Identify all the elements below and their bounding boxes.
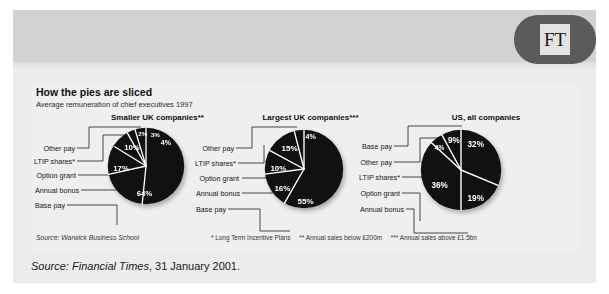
caption-publication: Financial Times	[72, 260, 149, 272]
pie-2-value-10: 10%	[270, 164, 286, 173]
pie-2-value-15: 15%	[282, 144, 298, 153]
chart-source-note: Source: Warwick Business School	[36, 234, 139, 241]
pie-2-label-other-pay: Other pay	[194, 144, 234, 153]
ft-logo-badge: FT	[514, 15, 596, 64]
pie-1-value-17: 17%	[113, 164, 129, 173]
chart-subtitle: Average remuneration of chief executives…	[36, 100, 193, 109]
pie-2-label-annual-bonus: Annual bonus	[194, 189, 240, 198]
pie-3-label-base-pay: Base pay	[358, 142, 392, 151]
pie-1-value-64: 64%	[137, 189, 153, 198]
header-band-fade	[13, 62, 596, 69]
chart-title: How the pies are sliced	[36, 86, 152, 98]
pie-3-value-36: 36%	[431, 181, 448, 190]
chart-card: How the pies are sliced Average remunera…	[31, 82, 578, 250]
pie-1-label-base-pay: Base pay	[31, 201, 65, 210]
pie-1-value-2: 2%	[138, 130, 147, 137]
pie-2-label-ltip-shares: LTIP shares*	[194, 159, 236, 168]
pie-2-label-base-pay: Base pay	[194, 205, 226, 214]
pie-1-value-10: 10%	[124, 143, 140, 152]
pie-3-value-4: 4%	[435, 144, 445, 151]
pie-chart-largest-uk: Largest UK companies*** Other pay LTIP s…	[194, 113, 379, 250]
chart-footnotes: * Long Term Incentive Plans ** Annual sa…	[211, 234, 484, 241]
pie-3-value-32: 32%	[468, 140, 485, 149]
pie-3-label-ltip-shares: LTIP shares*	[358, 173, 400, 182]
header-band	[13, 10, 596, 62]
ft-logo-square: FT	[540, 24, 570, 55]
pie-2-label-option-grant: Option grant	[194, 174, 239, 183]
ft-logo-text: FT	[544, 30, 566, 49]
pie-3-graphic: 32% 9% 4% 36% 19%	[420, 129, 502, 211]
pie-3-label-other-pay: Other pay	[358, 158, 392, 167]
pie-1-label-option-grant: Option grant	[31, 171, 76, 180]
pie-1-value-3: 3%	[151, 131, 160, 138]
pie-chart-smaller-uk: Smaller UK companies** Other pay LTIP sh…	[31, 113, 216, 250]
pie-2-value-55: 55%	[298, 197, 314, 206]
caption-date: , 31 January 2001.	[149, 260, 240, 272]
pie-1-label-annual-bonus: Annual bonus	[31, 186, 79, 195]
figure-caption: Source: Financial Times, 31 January 2001…	[31, 260, 240, 272]
pie-2-value-16: 16%	[274, 184, 290, 193]
pie-1-label-other-pay: Other pay	[31, 144, 75, 153]
pie-3-title: US, all companies	[358, 113, 586, 122]
pie-3-value-19: 19%	[468, 194, 485, 203]
pie-1-value-4: 4%	[161, 139, 172, 146]
footnote-ltip: * Long Term Incentive Plans	[211, 234, 290, 241]
pie-3-value-9: 9%	[448, 136, 461, 145]
pie-1-label-ltip-shares: LTIP shares*	[31, 157, 75, 166]
screenshot-root: FT How the pies are sliced Average remun…	[0, 0, 609, 294]
pie-3-label-option-grant: Option grant	[358, 189, 400, 198]
pie-2-value-4: 4%	[306, 132, 317, 141]
graphic-panel: FT How the pies are sliced Average remun…	[13, 10, 596, 283]
footnote-largest: *** Annual sales above £1.5bn	[391, 234, 477, 241]
pie-chart-us-all: US, all companies Base pay Other pay LTI…	[358, 113, 558, 250]
pie-1-graphic: 4% 3% 2% 10% 17% 64%	[107, 127, 185, 205]
caption-prefix: Source:	[31, 260, 69, 272]
footnote-smaller: ** Annual sales below £200m	[299, 234, 382, 241]
pie-2-graphic: 4% 15% 10% 16% 55%	[264, 129, 344, 209]
pie-3-label-annual-bonus: Annual bonus	[358, 205, 404, 214]
